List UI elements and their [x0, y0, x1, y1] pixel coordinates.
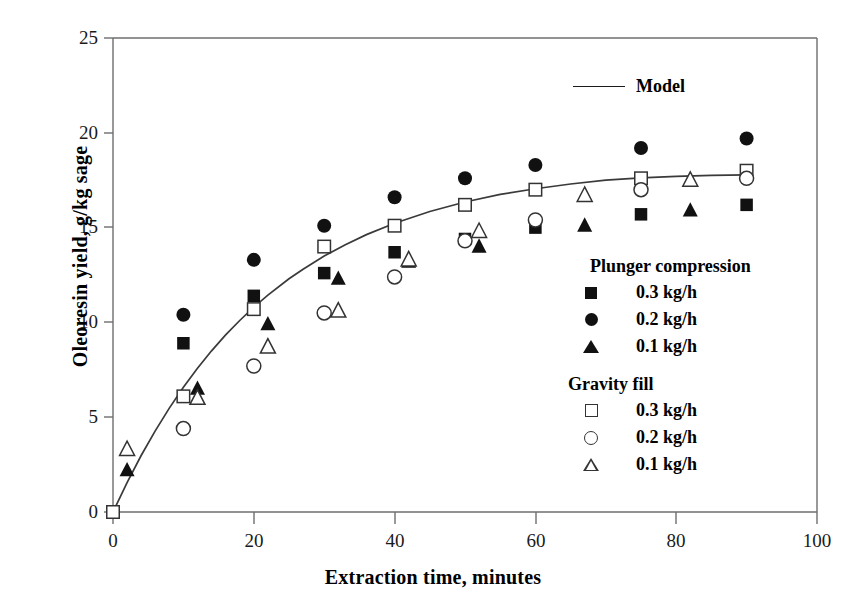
data-point-filled-square: [248, 290, 260, 303]
data-point-filled-triangle: [472, 238, 487, 252]
legend-label-plunger-01: 0.1 kg/h: [614, 336, 697, 357]
filled-circle-icon: [568, 313, 614, 326]
open-square-icon: [568, 404, 614, 417]
y-axis-title-wrapper: Oleoresin yield, g/kg sage: [69, 0, 92, 517]
x-tick-60: 60: [506, 530, 566, 552]
data-point-open-square: [388, 219, 401, 232]
data-point-open-triangle: [120, 441, 135, 455]
legend-item-gravity-03: 0.3 kg/h: [568, 397, 818, 424]
data-point-open-triangle: [577, 187, 592, 201]
data-point-filled-triangle: [260, 316, 275, 330]
data-point-open-circle: [458, 234, 472, 248]
legend-group-gravity: Gravity fill 0.3 kg/h 0.2 kg/h 0.1 kg/h: [568, 374, 818, 478]
x-axis-title: Extraction time, minutes: [0, 566, 866, 589]
legend-item-plunger-01: 0.1 kg/h: [568, 333, 818, 360]
data-point-filled-circle: [528, 158, 542, 172]
data-point-open-triangle: [260, 339, 275, 353]
legend-label-plunger-03: 0.3 kg/h: [614, 282, 697, 303]
data-point-filled-square: [740, 199, 753, 212]
data-point-open-circle: [634, 183, 648, 197]
filled-square-icon: [568, 287, 614, 299]
legend-label-model: Model: [636, 76, 685, 97]
chart-figure: 25 20 15 10 5 0 0 20 40 60 80 100 Extrac…: [0, 0, 866, 610]
data-point-open-square: [459, 199, 472, 212]
data-point-filled-square: [318, 267, 331, 280]
legend-group-title-gravity: Gravity fill: [568, 374, 818, 395]
data-point-open-square: [177, 390, 190, 403]
data-point-open-circle: [388, 270, 402, 284]
legend-label-plunger-02: 0.2 kg/h: [614, 309, 697, 330]
x-axis-ticks: [113, 512, 817, 524]
x-tick-100: 100: [787, 530, 847, 552]
data-point-open-circle: [740, 171, 754, 185]
y-axis-title: Oleoresin yield, g/kg sage: [69, 146, 92, 368]
data-point-open-triangle: [472, 223, 487, 237]
y-axis-ticks: [104, 38, 113, 512]
open-triangle-icon: [568, 458, 614, 471]
data-point-filled-circle: [388, 190, 402, 204]
data-point-filled-triangle: [683, 202, 698, 216]
legend-label-gravity-03: 0.3 kg/h: [614, 400, 697, 421]
data-point-open-triangle: [683, 172, 698, 186]
x-tick-40: 40: [365, 530, 425, 552]
data-point-filled-circle: [176, 308, 190, 322]
data-point-open-square: [248, 303, 260, 316]
legend-item-gravity-01: 0.1 kg/h: [568, 451, 818, 478]
data-point-filled-circle: [634, 141, 648, 155]
data-point-open-circle: [317, 306, 331, 320]
filled-triangle-icon: [568, 340, 614, 353]
legend-group-plunger: Plunger compression 0.3 kg/h 0.2 kg/h 0.…: [568, 256, 818, 360]
legend-box: Plunger compression 0.3 kg/h 0.2 kg/h 0.…: [568, 256, 818, 478]
data-point-open-circle: [528, 213, 542, 227]
x-tick-80: 80: [646, 530, 706, 552]
data-point-open-square: [529, 183, 542, 196]
data-point-open-triangle: [331, 303, 346, 317]
data-point-filled-triangle: [331, 270, 346, 284]
data-point-open-square: [107, 506, 120, 519]
legend-item-plunger-02: 0.2 kg/h: [568, 306, 818, 333]
data-point-filled-triangle: [577, 217, 592, 231]
data-point-filled-square: [388, 246, 401, 258]
data-point-filled-circle: [740, 131, 754, 145]
legend-label-gravity-01: 0.1 kg/h: [614, 454, 697, 475]
x-tick-0: 0: [83, 530, 143, 552]
data-point-filled-square: [635, 208, 648, 221]
legend-item-gravity-02: 0.2 kg/h: [568, 424, 818, 451]
legend-spacer: [568, 360, 818, 374]
x-tick-20: 20: [224, 530, 284, 552]
data-point-filled-square: [177, 337, 190, 350]
data-point-filled-triangle: [120, 462, 135, 476]
data-point-filled-circle: [317, 219, 331, 233]
data-point-open-circle: [247, 359, 261, 373]
legend-group-title-plunger: Plunger compression: [568, 256, 818, 277]
legend-entry-model: Model: [573, 76, 685, 97]
data-point-filled-circle: [247, 253, 261, 267]
data-point-open-circle: [176, 422, 190, 436]
data-point-open-square: [318, 240, 331, 253]
open-circle-icon: [568, 431, 614, 445]
data-point-open-triangle: [401, 251, 416, 265]
line-swatch-icon: [573, 86, 625, 87]
data-point-filled-circle: [458, 171, 472, 185]
legend-item-plunger-03: 0.3 kg/h: [568, 279, 818, 306]
legend-label-gravity-02: 0.2 kg/h: [614, 427, 697, 448]
